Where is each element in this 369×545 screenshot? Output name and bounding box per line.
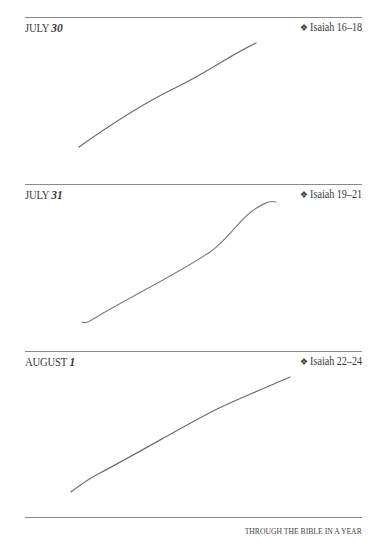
handwritten-pencil-stroke (0, 340, 369, 520)
handwritten-pencil-stroke (0, 160, 369, 340)
running-footer: THROUGH THE BIBLE IN A YEAR (245, 526, 362, 536)
handwritten-pencil-stroke (0, 0, 369, 170)
footer-rule (25, 517, 362, 518)
